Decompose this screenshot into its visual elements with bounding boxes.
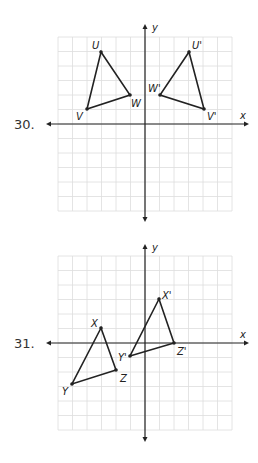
coordinate-graph-30: x y U V W U' V' W' <box>0 0 258 230</box>
x-axis-label: x <box>239 329 246 340</box>
point-label-z: Z <box>119 373 128 384</box>
triangle-xyz-image <box>130 299 174 356</box>
point-label-y: Y <box>62 386 69 397</box>
point-label-x-prime: X' <box>161 290 172 301</box>
point-label-v-prime: V' <box>207 111 217 122</box>
point-label-v: V <box>76 111 84 122</box>
triangle-xyz <box>72 328 116 384</box>
x-axis-label: x <box>239 110 246 121</box>
point-label-x: X <box>90 318 99 329</box>
point-label-w: W <box>131 98 142 109</box>
point-label-u-prime: U' <box>192 40 202 51</box>
point-label-y-prime: Y' <box>118 352 127 363</box>
point-label-w-prime: W' <box>148 83 161 94</box>
point-label-u: U <box>92 40 100 51</box>
problem-30: 30. x y U V W U' V' W' <box>0 0 258 230</box>
point-label-z-prime: Z' <box>176 346 187 357</box>
problem-31: 31. x y X Y Z X' Y' Z' <box>0 230 258 463</box>
coordinate-graph-31: x y X Y Z X' Y' Z' <box>0 230 258 463</box>
y-axis-label: y <box>151 242 159 253</box>
y-axis-label: y <box>151 22 159 33</box>
